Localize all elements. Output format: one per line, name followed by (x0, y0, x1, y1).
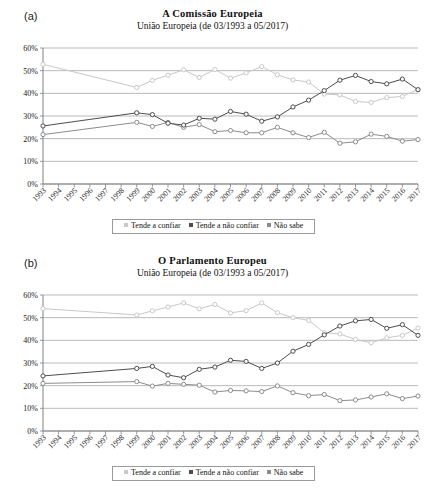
data-point-marker (353, 99, 357, 103)
x-axis-tick-label: 2016 (390, 186, 407, 203)
legend-item: Não sabe (267, 469, 304, 477)
x-axis-tick-label: 2005 (218, 186, 235, 203)
data-point-marker (41, 381, 45, 385)
data-point-marker (275, 384, 279, 388)
x-axis-tick-label: 1994 (46, 433, 63, 450)
data-point-marker (197, 367, 201, 371)
x-axis-tick-label: 2011 (312, 186, 329, 203)
data-point-marker (260, 64, 264, 68)
data-point-marker (400, 94, 404, 98)
data-point-marker (400, 333, 404, 337)
y-axis-tick-label: 30% (23, 112, 38, 121)
data-point-marker (41, 132, 45, 136)
x-axis-tick-label: 2002 (171, 186, 188, 203)
data-point-marker (275, 361, 279, 365)
data-point-marker (150, 364, 154, 368)
y-axis-tick-label: 10% (23, 157, 38, 166)
y-axis-tick-label: 50% (23, 314, 38, 323)
data-point-marker (322, 89, 326, 93)
data-point-marker (338, 78, 342, 82)
data-point-marker (307, 98, 311, 102)
x-axis-tick-label: 1997 (93, 433, 110, 450)
x-axis-tick-label: 1998 (109, 433, 126, 450)
data-point-marker (385, 336, 389, 340)
data-point-marker (197, 307, 201, 311)
data-point-marker (416, 137, 420, 141)
data-point-marker (275, 311, 279, 315)
y-axis-tick-label: 30% (23, 359, 38, 368)
y-axis-tick-label: 40% (23, 336, 38, 345)
data-point-marker (385, 326, 389, 330)
data-point-marker (385, 134, 389, 138)
x-axis-tick-label: 2007 (249, 186, 266, 203)
data-point-marker (291, 316, 295, 320)
data-point-marker (150, 124, 154, 128)
data-point-marker (400, 323, 404, 327)
data-point-marker (197, 123, 201, 127)
legend-item: Tende a não confiar (189, 469, 259, 477)
x-axis-tick-label: 2001 (156, 433, 173, 450)
panel-b: (b) O Parlamento Europeu União Europeia … (0, 247, 425, 494)
x-axis-tick-label: 2006 (234, 186, 251, 203)
data-point-marker (291, 349, 295, 353)
data-point-marker (244, 389, 248, 393)
data-point-marker (182, 376, 186, 380)
data-point-marker (166, 73, 170, 77)
data-point-marker (369, 79, 373, 83)
data-point-marker (338, 332, 342, 336)
data-point-marker (244, 71, 248, 75)
data-point-marker (322, 392, 326, 396)
data-point-marker (307, 80, 311, 84)
data-point-marker (213, 67, 217, 71)
data-point-marker (228, 388, 232, 392)
legend-b: Tende a confiarTende a não confiarNão sa… (112, 466, 315, 481)
data-point-marker (228, 128, 232, 132)
data-point-marker (150, 384, 154, 388)
legend-label: Não sabe (274, 468, 304, 477)
data-point-marker (369, 395, 373, 399)
x-axis-tick-label: 2015 (374, 186, 391, 203)
panel-a-title: A Comissão Europeia (0, 8, 425, 19)
data-point-marker (166, 121, 170, 125)
data-point-marker (150, 78, 154, 82)
data-point-marker (197, 383, 201, 387)
data-point-marker (416, 326, 420, 330)
x-axis-tick-label: 1996 (77, 433, 94, 450)
x-axis-tick-label: 1994 (46, 186, 63, 203)
legend-label: Tende a confiar (131, 221, 181, 230)
data-point-marker (291, 105, 295, 109)
legend-marker-icon (189, 223, 193, 227)
x-axis-tick-label: 2017 (406, 186, 423, 203)
panel-a-subtitle: União Europeia (de 03/1993 a 05/2017) (0, 21, 425, 31)
x-axis-tick-label: 2014 (359, 186, 376, 203)
x-axis-tick-label: 2002 (171, 433, 188, 450)
data-point-marker (135, 85, 139, 89)
legend-label: Não sabe (274, 221, 304, 230)
legend-item: Tende a não confiar (189, 222, 259, 230)
y-axis-tick-label: 20% (23, 135, 38, 144)
data-point-marker (182, 68, 186, 72)
x-axis-tick-label: 2005 (218, 433, 235, 450)
data-point-marker (244, 112, 248, 116)
panel-a: (a) A Comissão Europeia União Europeia (… (0, 0, 425, 247)
data-point-marker (307, 318, 311, 322)
data-point-marker (353, 398, 357, 402)
data-point-marker (135, 120, 139, 124)
x-axis-tick-label: 1999 (124, 186, 141, 203)
data-point-marker (385, 392, 389, 396)
data-point-marker (166, 305, 170, 309)
x-axis-tick-label: 2006 (234, 433, 251, 450)
data-point-marker (135, 366, 139, 370)
y-axis-tick-label: 50% (23, 67, 38, 76)
y-axis-tick-label: 60% (23, 291, 38, 300)
legend-label: Tende a confiar (131, 468, 181, 477)
x-axis-tick-label: 2016 (390, 433, 407, 450)
data-point-marker (307, 394, 311, 398)
data-point-marker (260, 301, 264, 305)
x-axis-tick-label: 2010 (296, 186, 313, 203)
series-line (43, 75, 418, 126)
x-axis-tick-label: 2012 (327, 186, 344, 203)
x-axis-tick-label: 2001 (156, 186, 173, 203)
x-axis-tick-label: 2017 (406, 433, 423, 450)
data-point-marker (135, 111, 139, 115)
